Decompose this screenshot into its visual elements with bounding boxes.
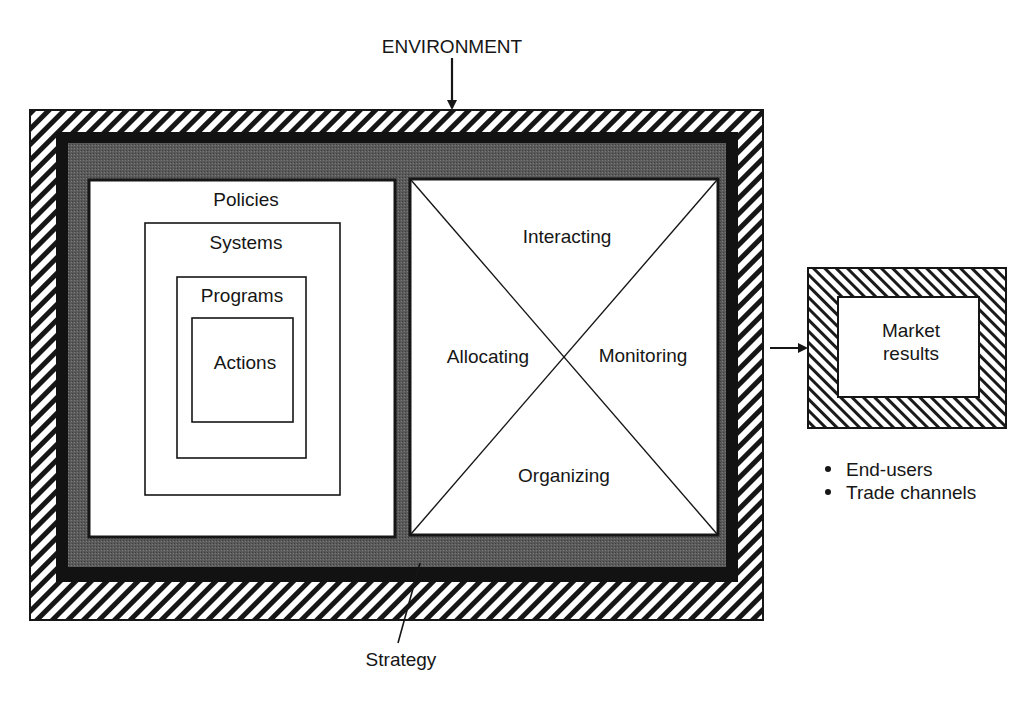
programs-label: Programs <box>201 285 283 306</box>
nested-levels-panel: Policies Systems Programs Actions <box>89 180 395 537</box>
bullet-icon <box>825 466 831 472</box>
strategy-label: Strategy <box>366 649 437 670</box>
environment-label: ENVIRONMENT <box>382 36 523 57</box>
interacting-label: Interacting <box>523 226 612 247</box>
activities-panel: Interacting Allocating Monitoring Organi… <box>410 179 718 535</box>
diagram-canvas: Policies Systems Programs Actions Intera… <box>0 0 1036 709</box>
bullet-trade-channels: Trade channels <box>846 482 976 503</box>
market-results-box: Market results <box>808 268 1006 428</box>
actions-label: Actions <box>214 352 276 373</box>
output-bullet-list: End-users Trade channels <box>825 459 976 503</box>
policies-label: Policies <box>213 189 278 210</box>
organizing-label: Organizing <box>518 465 610 486</box>
bullet-icon <box>825 489 831 495</box>
allocating-label: Allocating <box>447 346 529 367</box>
market-results-label-line2: results <box>883 343 939 364</box>
market-results-label-line1: Market <box>882 320 941 341</box>
systems-label: Systems <box>210 232 283 253</box>
bullet-end-users: End-users <box>846 459 933 480</box>
monitoring-label: Monitoring <box>599 345 688 366</box>
